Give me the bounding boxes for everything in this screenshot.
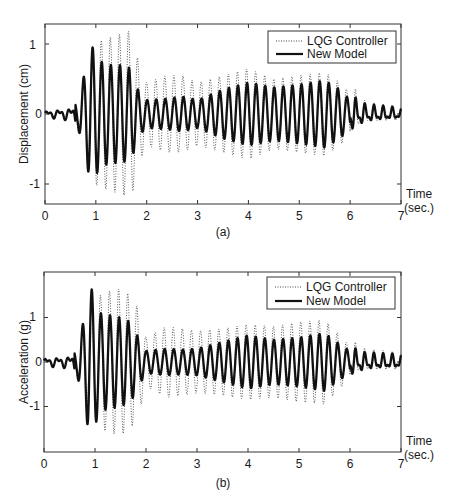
- legend-new-label-a: New Model: [307, 47, 367, 61]
- xtick-label: 3: [194, 209, 201, 223]
- series-new-model: [44, 289, 401, 424]
- chart-a-svg: LQG Controller New Model 1 0 -1 Displace…: [0, 0, 457, 252]
- caption-b: (b): [216, 476, 231, 490]
- legend-a: LQG Controller New Model: [268, 31, 396, 63]
- ylabel-b: Acceleration (g): [17, 320, 31, 404]
- xtick-label: 4: [245, 457, 252, 471]
- ytick-b-0: 0: [35, 355, 42, 369]
- caption-a: (a): [216, 225, 231, 239]
- xtick-label: 0: [42, 209, 49, 223]
- ytick-a-0: 0: [35, 107, 42, 121]
- xtick-label: 2: [143, 457, 150, 471]
- legend-b: LQG Controller New Model: [267, 277, 395, 309]
- ytick-a-1: 1: [29, 38, 36, 52]
- xtick-labels-a: 01234567: [42, 209, 405, 223]
- xlabel-time-b: Time: [406, 434, 433, 448]
- xtick-label: 2: [143, 209, 150, 223]
- xtick-label: 1: [92, 457, 99, 471]
- figure-b-acceleration: LQG Controller New Model 1 0 -1 Accelera…: [0, 252, 457, 504]
- legend-new-label-b: New Model: [306, 294, 366, 308]
- xtick-label: 3: [194, 457, 201, 471]
- xtick-label: 5: [296, 209, 303, 223]
- ytick-a-neg1: -1: [29, 177, 40, 191]
- series-new-model: [45, 47, 401, 173]
- xlabel-unit-b: (sec.): [404, 448, 434, 462]
- xtick-label: 0: [41, 457, 48, 471]
- xlabel-time-a: Time: [406, 187, 433, 201]
- series-b: [44, 289, 401, 434]
- figure-a-displacement: LQG Controller New Model 1 0 -1 Displace…: [0, 0, 457, 252]
- chart-b-svg: LQG Controller New Model 1 0 -1 Accelera…: [0, 252, 457, 504]
- xtick-label: 5: [296, 457, 303, 471]
- xtick-labels-b: 01234567: [41, 457, 405, 471]
- ylabel-a: Displacement (cm): [17, 64, 31, 164]
- xlabel-unit-a: (sec.): [404, 201, 434, 215]
- legend-lqg-label-a: LQG Controller: [307, 34, 388, 48]
- xtick-label: 4: [245, 209, 252, 223]
- legend-lqg-label-b: LQG Controller: [306, 280, 387, 294]
- xtick-label: 1: [93, 209, 100, 223]
- xtick-label: 6: [347, 209, 354, 223]
- xtick-label: 6: [347, 457, 354, 471]
